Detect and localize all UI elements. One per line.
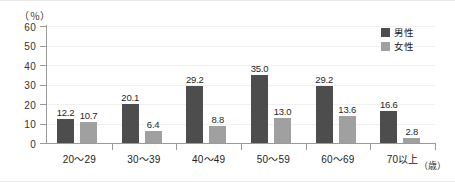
legend-label-female: 女性: [394, 39, 414, 53]
y-axis-tick: 30: [40, 85, 47, 86]
bar-value-label: 13.6: [338, 104, 356, 115]
x-axis-category-label: 60〜69: [306, 151, 371, 166]
x-axis-end-tick: [435, 143, 436, 150]
y-axis-tick-label: 0: [30, 138, 36, 149]
bar-value-label: 13.0: [274, 106, 292, 117]
bar-male[interactable]: 29.2: [186, 86, 203, 143]
bar-female[interactable]: 2.8: [403, 138, 420, 143]
y-axis-tick-label: 20: [24, 99, 36, 110]
bar-male[interactable]: 12.2: [57, 119, 74, 143]
bar-value-label: 29.2: [186, 74, 204, 85]
legend-label-male: 男性: [394, 25, 414, 39]
x-axis-category-label: 40〜49: [176, 151, 241, 166]
x-axis-category-label: 70以上: [370, 151, 435, 166]
y-axis-tick: 40: [40, 65, 47, 66]
chart-legend: 男性 女性: [381, 26, 414, 54]
bar-group: 35.013.0: [241, 26, 306, 143]
bar-value-label: 8.8: [212, 114, 225, 125]
bar-female[interactable]: 13.0: [274, 118, 291, 143]
y-axis-tick: 50: [40, 46, 47, 47]
bar-male[interactable]: 16.6: [380, 111, 397, 143]
bar-value-label: 20.1: [121, 92, 139, 103]
chart-frame-top-border: [0, 0, 455, 1]
legend-swatch-female-icon: [381, 42, 390, 51]
x-axis-category-label: 50〜59: [241, 151, 306, 166]
x-axis-category-label: 30〜39: [112, 151, 177, 166]
y-axis-tick: 60: [40, 26, 47, 27]
y-axis-tick: 0: [40, 143, 47, 144]
bar-male[interactable]: 20.1: [122, 104, 139, 143]
legend-item-male: 男性: [381, 26, 414, 38]
bar-value-label: 6.4: [147, 119, 160, 130]
bar-female[interactable]: 13.6: [339, 116, 356, 143]
bar-chart: （％） （歳） 0102030405060 12.210.720.16.429.…: [0, 0, 455, 182]
bar-group: 12.210.7: [47, 26, 112, 143]
bar-group: 20.16.4: [112, 26, 177, 143]
bar-value-label: 12.2: [57, 107, 75, 118]
bar-group: 29.213.6: [306, 26, 371, 143]
legend-swatch-male-icon: [381, 28, 390, 37]
x-axis-group-separator: [176, 143, 177, 150]
x-axis-category-label: 20〜29: [47, 151, 112, 166]
bar-group: 29.28.8: [176, 26, 241, 143]
bar-female[interactable]: 8.8: [209, 126, 226, 143]
bar-male[interactable]: 35.0: [251, 75, 268, 143]
y-axis-tick-label: 40: [24, 60, 36, 71]
bar-female[interactable]: 6.4: [145, 131, 162, 143]
legend-item-female: 女性: [381, 40, 414, 52]
chart-frame-bottom-border: [0, 181, 455, 182]
bar-value-label: 29.2: [315, 74, 333, 85]
bar-value-label: 10.7: [80, 110, 98, 121]
bar-female[interactable]: 10.7: [80, 122, 97, 143]
y-axis-tick-label: 50: [24, 41, 36, 52]
bar-value-label: 35.0: [251, 63, 269, 74]
y-axis-tick-label: 30: [24, 80, 36, 91]
plot-area: 12.210.720.16.429.28.835.013.029.213.616…: [47, 26, 435, 143]
y-axis-tick: 10: [40, 124, 47, 125]
x-axis-group-separator: [112, 143, 113, 150]
bar-value-label: 16.6: [380, 99, 398, 110]
y-axis-tick: 20: [40, 104, 47, 105]
bar-male[interactable]: 29.2: [316, 86, 333, 143]
y-axis-tick-label: 10: [24, 119, 36, 130]
x-axis-group-separator: [306, 143, 307, 150]
x-axis-group-separator: [370, 143, 371, 150]
bar-value-label: 2.8: [406, 126, 419, 137]
x-axis-group-separator: [241, 143, 242, 150]
y-axis-tick-label: 60: [24, 21, 36, 32]
